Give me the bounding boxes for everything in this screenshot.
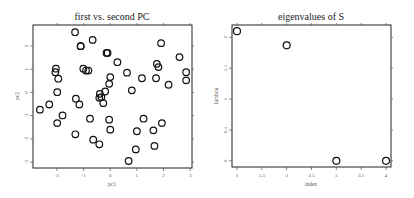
data-point-marker (87, 115, 94, 122)
plot1-y-ticks: -3-2-1012 (24, 44, 194, 164)
y-tick-label: 2 (24, 44, 29, 47)
plot1-y-label: pc2 (14, 92, 20, 100)
data-point-marker (72, 131, 79, 138)
y-tick-label: 1.5 (223, 65, 228, 72)
data-point-marker (159, 120, 166, 127)
data-point-marker (158, 40, 165, 47)
data-point-marker (151, 143, 158, 150)
y-tick-label: 0 (223, 159, 228, 162)
data-point-marker (96, 141, 103, 148)
plot1-points (37, 29, 190, 164)
y-tick-label: -1 (24, 113, 29, 118)
y-tick-label: -3 (24, 160, 29, 165)
x-tick-label: 3 (189, 173, 192, 178)
data-point-marker (114, 59, 121, 66)
data-point-marker (89, 37, 96, 44)
data-point-marker (150, 127, 157, 134)
data-point-marker (140, 115, 147, 122)
data-point-marker (77, 43, 84, 50)
plot-eigenvalues: eigenvalues of S 11.522.533.54 00.511.52… (213, 11, 393, 187)
eigenvalue-point-marker (233, 28, 240, 35)
plot2-title: eigenvalues of S (278, 11, 344, 22)
x-tick-label: -1 (82, 173, 87, 178)
data-point-marker (59, 112, 66, 119)
plot2-frame (232, 25, 391, 167)
data-point-marker (54, 120, 61, 127)
x-tick-label: 0 (109, 173, 112, 178)
data-point-marker (139, 75, 146, 82)
x-tick-label: 2 (162, 173, 165, 178)
data-point-marker (183, 69, 190, 76)
y-tick-label: 2 (223, 36, 228, 39)
eigenvalue-point-marker (383, 157, 390, 164)
plot1-x-label: pc1 (108, 181, 116, 187)
x-tick-label: 4 (385, 173, 388, 178)
y-tick-label: 0.5 (223, 126, 228, 133)
data-point-marker (46, 101, 53, 108)
x-tick-label: 3 (335, 173, 338, 178)
y-tick-label: 1 (24, 67, 29, 70)
data-point-marker (106, 116, 113, 123)
x-tick-label: 2 (285, 173, 288, 178)
data-point-marker (133, 146, 140, 153)
data-point-marker (107, 74, 114, 81)
data-point-marker (165, 81, 172, 88)
y-tick-label: -2 (24, 136, 29, 141)
plot1-frame (33, 25, 192, 168)
plot1-title: first vs. second PC (75, 11, 150, 22)
data-point-marker (37, 106, 44, 113)
data-point-marker (129, 87, 136, 94)
y-tick-label: 0 (24, 91, 29, 94)
y-tick-label: 1 (223, 97, 228, 100)
x-tick-label: 1 (236, 173, 239, 178)
chart-canvas: first vs. second PC -2-10123 -3-2-1012 p… (0, 0, 414, 198)
eigenvalue-point-marker (333, 157, 340, 164)
x-tick-label: -2 (55, 173, 60, 178)
data-point-marker (100, 100, 107, 107)
data-point-marker (124, 69, 131, 76)
data-point-marker (153, 75, 160, 82)
data-point-marker (76, 101, 83, 108)
plot2-y-ticks: 00.511.52 (223, 36, 393, 162)
plot2-x-label: index (305, 181, 317, 187)
x-tick-label: 1 (136, 173, 139, 178)
x-tick-label: 3.5 (358, 173, 365, 178)
data-point-marker (107, 126, 114, 133)
plot-pc-scatter: first vs. second PC -2-10123 -3-2-1012 p… (14, 11, 194, 187)
data-point-marker (106, 81, 113, 88)
data-point-marker (125, 158, 132, 165)
plot2-x-ticks: 11.522.533.54 (236, 23, 388, 178)
data-point-marker (183, 77, 190, 84)
x-tick-label: 2.5 (308, 173, 315, 178)
data-point-marker (134, 128, 141, 135)
data-point-marker (55, 75, 62, 82)
eigenvalue-point-marker (283, 42, 290, 49)
data-point-marker (90, 136, 97, 143)
plot1-x-ticks: -2-10123 (55, 23, 192, 178)
data-point-marker (54, 89, 61, 96)
plot2-y-label: lambda (213, 87, 219, 104)
x-tick-label: 1.5 (259, 173, 266, 178)
plot2-points (233, 28, 389, 165)
data-point-marker (72, 29, 79, 36)
data-point-marker (176, 54, 183, 61)
